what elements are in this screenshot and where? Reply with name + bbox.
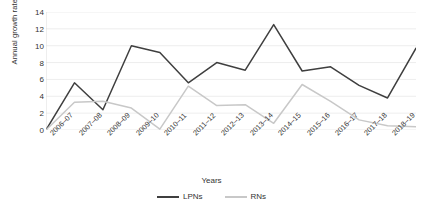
legend-swatch-icon bbox=[225, 196, 247, 198]
line-chart: Annual growth rate (%) 02468101214 2006–… bbox=[0, 0, 423, 213]
legend-item-rns[interactable]: RNs bbox=[225, 192, 267, 201]
y-tick-label: 4 bbox=[40, 92, 44, 101]
legend-label: LPNs bbox=[183, 192, 203, 201]
chart-svg bbox=[46, 12, 416, 130]
y-tick-label: 10 bbox=[35, 41, 44, 50]
legend-swatch-icon bbox=[157, 196, 179, 198]
y-axis-title-wrapper: Annual growth rate (%) bbox=[0, 0, 16, 135]
y-tick-label: 14 bbox=[35, 8, 44, 17]
y-tick-label: 6 bbox=[40, 75, 44, 84]
x-axis-tick-labels: 2006–072007–082008–092009–102010–112011–… bbox=[46, 131, 416, 173]
chart-legend: LPNsRNs bbox=[0, 192, 423, 201]
y-tick-label: 12 bbox=[35, 24, 44, 33]
gridlines bbox=[46, 12, 416, 130]
y-tick-label: 2 bbox=[40, 109, 44, 118]
y-tick-label: 8 bbox=[40, 58, 44, 67]
y-axis-tick-labels: 02468101214 bbox=[24, 12, 44, 130]
legend-label: RNs bbox=[251, 192, 267, 201]
x-axis-title: Years bbox=[0, 176, 423, 185]
plot-area bbox=[46, 12, 416, 130]
legend-item-lpns[interactable]: LPNs bbox=[157, 192, 203, 201]
y-axis-title: Annual growth rate (%) bbox=[10, 0, 19, 85]
y-tick-label: 0 bbox=[40, 126, 44, 135]
